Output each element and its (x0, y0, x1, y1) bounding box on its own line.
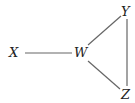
node-w-label: W (74, 45, 89, 60)
node-x-label: X (8, 45, 19, 60)
edge-w-z (88, 61, 120, 89)
graph-diagram: X W Y Z (0, 0, 135, 103)
node-z-label: Z (120, 87, 131, 102)
edge-w-y (88, 16, 121, 45)
node-y-label: Y (121, 4, 131, 19)
